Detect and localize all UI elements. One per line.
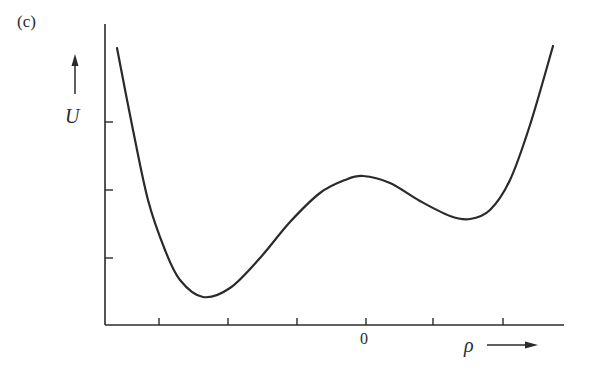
potential-energy-chart bbox=[0, 0, 589, 372]
y-axis-label: U bbox=[65, 105, 79, 128]
x-direction-arrow-icon bbox=[487, 342, 538, 349]
panel-label: (c) bbox=[17, 12, 36, 32]
y-direction-arrow-icon bbox=[72, 54, 79, 94]
x-axis-label: ρ bbox=[464, 334, 474, 357]
potential-curve bbox=[117, 46, 553, 297]
x-tick-label-zero: 0 bbox=[360, 330, 368, 348]
x-ticks bbox=[159, 318, 503, 325]
y-ticks bbox=[105, 122, 113, 258]
